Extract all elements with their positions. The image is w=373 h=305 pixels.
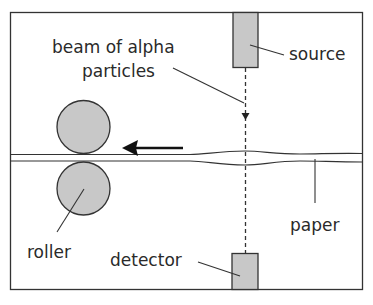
diagram-canvas: beam of alpha particles source paper rol…	[0, 0, 373, 305]
beam-label-line2: particles	[82, 61, 155, 81]
beam-label-line1: beam of alpha	[52, 37, 175, 57]
detector-block	[232, 254, 258, 290]
source-label: source	[289, 44, 345, 64]
roller-label: roller	[27, 242, 71, 262]
source-block	[233, 13, 258, 68]
top-roller	[57, 101, 110, 154]
bottom-roller	[57, 162, 110, 215]
paper-label: paper	[290, 215, 339, 235]
detector-label: detector	[110, 250, 182, 270]
